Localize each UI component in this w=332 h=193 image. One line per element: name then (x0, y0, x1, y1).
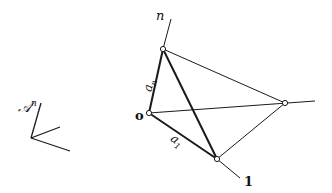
space-symbol: 𝒜 (18, 99, 31, 115)
label-1: 1 (244, 175, 253, 188)
vertex-right (282, 100, 287, 105)
space-superscript: n (31, 98, 37, 108)
thick-edges (149, 49, 217, 159)
thin-edges (149, 19, 315, 178)
vertex-top (160, 46, 165, 51)
vertex-bottom (214, 156, 219, 161)
label-space: 𝒜n (18, 99, 37, 114)
simplex-diagram (0, 0, 332, 193)
axis-frame (31, 103, 70, 151)
label-o: o (135, 109, 144, 122)
label-n: n (156, 9, 164, 22)
vertex-origin (146, 110, 151, 115)
